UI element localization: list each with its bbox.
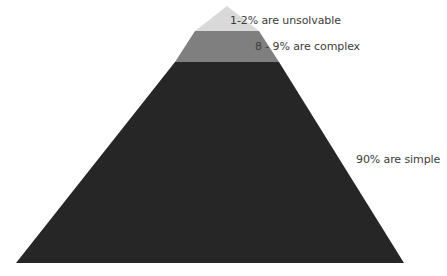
pyramid-tier-bottom bbox=[16, 62, 404, 263]
tier-label-unsolvable: 1-2% are unsolvable bbox=[230, 14, 341, 27]
pyramid-diagram bbox=[0, 0, 447, 276]
tier-label-simple: 90% are simple bbox=[356, 153, 440, 166]
tier-label-complex: 8 - 9% are complex bbox=[255, 40, 360, 53]
